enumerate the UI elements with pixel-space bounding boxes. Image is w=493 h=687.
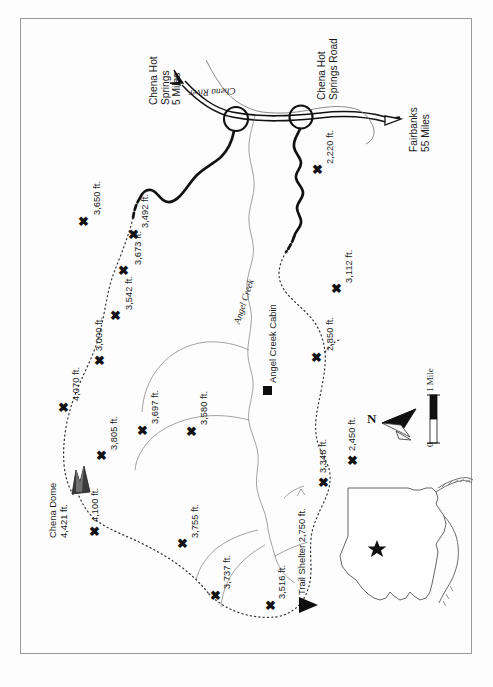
scale-max-label: 1 Mile bbox=[425, 368, 435, 392]
label-elev-3755: 3,755 ft. bbox=[190, 504, 200, 538]
road-line-1: Chena Hot bbox=[316, 38, 328, 100]
label-elev-3580: 3,580 ft. bbox=[199, 391, 209, 425]
label-chena-dome: Chena Dome 4,421 ft. bbox=[48, 483, 69, 538]
label-elev-4100: 4,100 ft. bbox=[90, 488, 100, 522]
label-elev-3348: 3,348 ft. bbox=[318, 439, 328, 473]
fairbanks-line-2: 55 Miles bbox=[420, 107, 432, 152]
fairbanks-line-1: Fairbanks bbox=[408, 107, 420, 152]
label-elev-3000: 3,000 ft. bbox=[94, 317, 104, 351]
label-elev-3737: 3,737 ft. bbox=[222, 555, 232, 589]
chena-dome-elevation: 4,421 ft. bbox=[59, 483, 70, 538]
elevation-x-3697: ✖ bbox=[137, 425, 148, 438]
elevation-x-3755: ✖ bbox=[177, 538, 188, 551]
label-elev-3492: 3,492 ft. bbox=[140, 194, 150, 228]
label-elev-3805: 3,805 ft. bbox=[109, 416, 119, 450]
elevation-x-3112: ✖ bbox=[331, 283, 342, 296]
elevation-x-2450: ✖ bbox=[347, 455, 358, 468]
elevation-x-3580: ✖ bbox=[186, 426, 197, 439]
elevation-x-4070: ✖ bbox=[58, 402, 69, 415]
destination-line-1: Chena Hot bbox=[148, 56, 160, 105]
scale-bar-symbol bbox=[427, 395, 440, 443]
elevation-x-3000: ✖ bbox=[94, 355, 105, 368]
elevation-x-3516: ✖ bbox=[265, 600, 276, 613]
label-chena-hot-springs-road: Chena Hot Springs Road bbox=[316, 38, 339, 100]
label-elev-2220: 2,220 ft. bbox=[325, 130, 335, 164]
elevation-x-3650: ✖ bbox=[78, 216, 89, 229]
north-label: N bbox=[367, 412, 376, 427]
chena-dome-name: Chena Dome bbox=[48, 483, 59, 538]
label-angel-creek-cabin: Angel Creek Cabin bbox=[268, 304, 279, 383]
label-elev-3112: 3,112 ft. bbox=[344, 250, 354, 283]
elevation-x-2850: ✖ bbox=[311, 352, 322, 365]
trail-shelter-symbol[interactable] bbox=[299, 597, 318, 613]
elevation-x-2220: ✖ bbox=[312, 164, 323, 177]
north-arrow-symbol bbox=[382, 409, 416, 440]
elevation-x-3737: ✖ bbox=[210, 590, 221, 603]
elevation-x-3348: ✖ bbox=[318, 477, 329, 490]
chena-river bbox=[206, 60, 374, 324]
destination-line-3: 5 Miles bbox=[171, 56, 183, 105]
label-elev-2850: 2,850 ft. bbox=[325, 317, 335, 351]
alaska-inset-outline bbox=[340, 478, 473, 606]
elevation-x-3542: ✖ bbox=[110, 310, 121, 323]
road-line-2: Springs Road bbox=[328, 38, 340, 100]
label-fairbanks-destination: Fairbanks 55 Miles bbox=[408, 107, 431, 152]
label-trail-shelter: Trail Shelter 2,750 ft. bbox=[297, 508, 308, 595]
elevation-x-4100: ✖ bbox=[89, 526, 100, 539]
elevation-x-3805: ✖ bbox=[96, 450, 107, 463]
label-elev-3516: 3,516 ft. bbox=[277, 565, 287, 599]
label-elev-3542: 3,542 ft. bbox=[124, 276, 134, 310]
label-elev-3650: 3,650 ft. bbox=[92, 181, 102, 215]
trailhead-circle-east[interactable] bbox=[290, 106, 313, 129]
label-chena-hot-springs-destination: Chena Hot Springs 5 Miles bbox=[148, 56, 183, 105]
destination-line-2: Springs bbox=[160, 56, 172, 105]
label-elev-2450: 2,450 ft. bbox=[347, 417, 357, 451]
scale-min-label: 0 bbox=[425, 443, 435, 448]
label-elev-3697: 3,697 ft. bbox=[150, 390, 160, 424]
label-elev-3673: 3,673 ft. bbox=[133, 231, 143, 265]
label-elev-4070: 4,070 ft. bbox=[71, 367, 81, 401]
chena-dome-peak-symbol bbox=[72, 466, 90, 494]
map-linework bbox=[0, 0, 493, 687]
angel-creek-cabin-symbol[interactable] bbox=[263, 386, 272, 395]
map-page: Chena Hot Springs 5 Miles Chena Hot Spri… bbox=[0, 0, 493, 687]
